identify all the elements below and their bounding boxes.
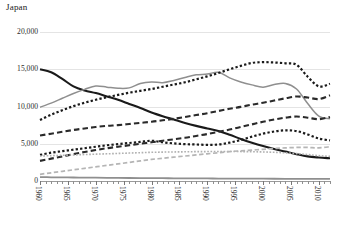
series-lines xyxy=(0,0,338,227)
series-gray-solid xyxy=(40,72,330,119)
series-gray-baseline xyxy=(40,177,330,179)
chart-page: Japan 05,00010,00015,00020,000 196019651… xyxy=(0,0,338,227)
